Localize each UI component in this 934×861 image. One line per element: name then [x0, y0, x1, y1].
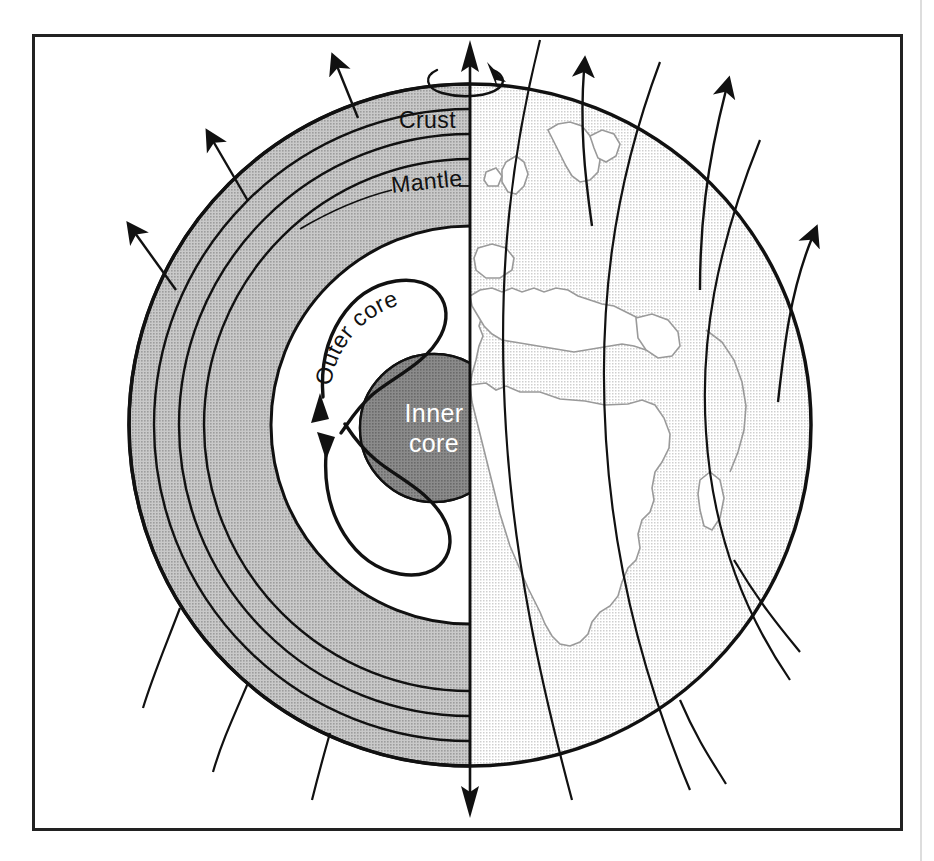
- figure-page: Crust Mantle Outer core Inner core: [0, 0, 934, 861]
- inner-core-label-line2: core: [409, 429, 459, 457]
- crust-label: Crust: [399, 107, 456, 133]
- inner-core-label-line1: Inner: [405, 399, 464, 427]
- earth-magnetic-field-diagram: Crust Mantle Outer core Inner core: [0, 0, 934, 861]
